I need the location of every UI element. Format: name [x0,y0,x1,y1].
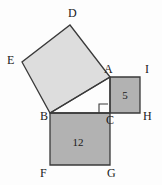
geometry-figure: 5 12 D E A I B C H F G [0,0,162,185]
right-angle-at-C [99,104,108,113]
geometry-canvas: 5 12 D E A I B C H F G [0,0,162,185]
square-on-hypotenuse-ABDE [22,25,110,113]
label-F: F [40,166,47,180]
label-I: I [145,62,149,76]
area-label-large-square: 12 [73,136,84,148]
area-label-small-square: 5 [122,89,128,101]
label-C: C [106,113,114,127]
label-H: H [143,109,152,123]
label-G: G [107,166,116,180]
label-A: A [104,62,113,76]
label-D: D [68,6,77,20]
label-B: B [40,109,48,123]
label-E: E [7,53,14,67]
